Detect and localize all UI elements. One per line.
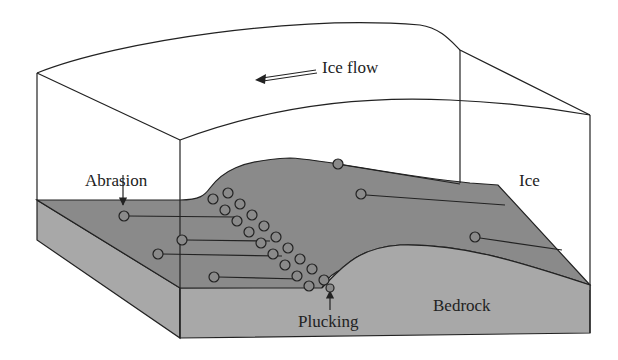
ice-flow-label: Ice flow [322, 58, 378, 78]
ice-flow-arrow-icon [255, 70, 317, 84]
ice-left-diagonal [37, 73, 180, 140]
ice-top-back-edge [37, 23, 590, 115]
ice-top-front-edge [180, 99, 590, 140]
abrasion-label: Abrasion [85, 171, 147, 191]
ice-label: Ice [519, 171, 540, 191]
plucking-label: Plucking [298, 312, 358, 332]
bedrock-label: Bedrock [433, 296, 491, 316]
bedrock-front-face [180, 285, 590, 338]
